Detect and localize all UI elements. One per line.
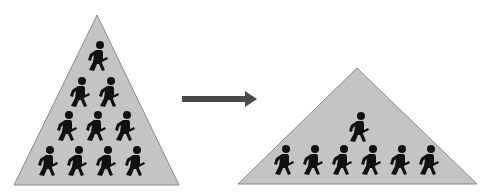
transition-arrow [182, 91, 257, 107]
hierarchy-diagram [0, 0, 487, 196]
tall-pyramid-triangle [14, 15, 179, 185]
left-pyramid [14, 15, 179, 185]
right-pyramid [238, 68, 477, 184]
right-arrow-icon [245, 91, 257, 107]
arrow-shaft [182, 96, 246, 102]
